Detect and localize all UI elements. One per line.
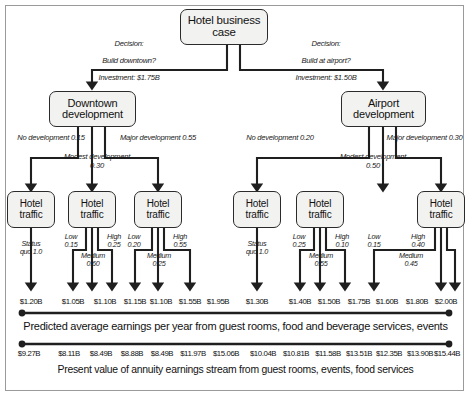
branch-label-downtown-no-development: No development 0.15 bbox=[6, 134, 96, 143]
node-hotel-traffic-airport-no-dev[interactable]: Hotel traffic bbox=[233, 191, 281, 228]
branch-label-airport-no-development: No development 0.20 bbox=[235, 134, 325, 143]
traffic-label-airport-major-high: High 0.40 bbox=[404, 233, 432, 249]
traffic-label-airport-modest-low: Low 0.25 bbox=[285, 233, 313, 249]
downtown-line-2: development bbox=[62, 109, 123, 120]
earnings-value: $1.20B bbox=[9, 297, 53, 306]
node-hotel-traffic-downtown-major[interactable]: Hotel traffic bbox=[134, 191, 182, 228]
traffic-line-2: traffic bbox=[430, 210, 453, 220]
node-hotel-traffic-airport-major[interactable]: Hotel traffic bbox=[417, 191, 465, 228]
node-hotel-traffic-downtown-no-dev[interactable]: Hotel traffic bbox=[7, 191, 55, 228]
annuity-value: $9.27B bbox=[7, 349, 51, 358]
decision-downtown-line-2: Build downtown? bbox=[76, 57, 182, 66]
root-line-2: case bbox=[188, 27, 261, 39]
airport-line-2: development bbox=[353, 109, 414, 120]
traffic-label-airport-major-medium: Medium 0.45 bbox=[389, 252, 433, 268]
earnings-value: $2.00B bbox=[424, 297, 468, 306]
branch-label-airport-modest-development: Modest development 0.50 bbox=[325, 153, 421, 170]
traffic-line-2: traffic bbox=[309, 210, 332, 220]
traffic-line-1: Hotel bbox=[246, 199, 269, 209]
traffic-line-2: traffic bbox=[81, 210, 104, 220]
decision-downtown-line-1: Decision: bbox=[76, 40, 182, 49]
node-airport-development[interactable]: Airport development bbox=[341, 91, 426, 127]
traffic-label-airport-modest-high: High 0.10 bbox=[328, 233, 356, 249]
traffic-label-downtown-no-dev-status: Status quo 1.0 bbox=[2, 240, 60, 256]
traffic-line-2: traffic bbox=[147, 210, 170, 220]
traffic-line-1: Hotel bbox=[147, 199, 170, 209]
traffic-line-1: Hotel bbox=[430, 199, 453, 209]
branch-label-downtown-major-development: Major development 0.55 bbox=[110, 134, 206, 143]
decision-downtown-line-3: Investment: $1.75B bbox=[76, 74, 182, 83]
traffic-line-2: traffic bbox=[246, 210, 269, 220]
decision-airport-line-3: Investment: $1.50B bbox=[271, 74, 381, 83]
annuity-caption: Present value of annuity earnings stream… bbox=[0, 364, 471, 375]
node-downtown-development[interactable]: Downtown development bbox=[49, 91, 136, 127]
traffic-line-1: Hotel bbox=[309, 199, 332, 209]
decision-label-airport: Decision: Build at airport? Investment: … bbox=[271, 31, 381, 91]
branch-label-airport-major-development: Major development 0.30 bbox=[378, 134, 471, 143]
node-hotel-traffic-airport-modest[interactable]: Hotel traffic bbox=[296, 191, 344, 228]
decision-label-downtown: Decision: Build downtown? Investment: $1… bbox=[76, 31, 182, 91]
traffic-label-downtown-major-medium: Medium 0.25 bbox=[137, 252, 181, 268]
traffic-label-airport-no-dev-status: Status quo 1.0 bbox=[228, 240, 286, 256]
traffic-line-1: Hotel bbox=[20, 199, 43, 209]
node-hotel-traffic-downtown-modest[interactable]: Hotel traffic bbox=[68, 191, 116, 228]
annuity-value: $15.44B bbox=[425, 349, 469, 358]
decision-tree-diagram: Hotel business case Downtown development… bbox=[0, 0, 471, 404]
branch-label-downtown-modest-development: Modest development 0.30 bbox=[49, 153, 145, 170]
decision-airport-line-2: Build at airport? bbox=[271, 57, 381, 66]
traffic-label-airport-modest-medium: Medium 0.55 bbox=[299, 252, 343, 268]
traffic-line-2: traffic bbox=[20, 210, 43, 220]
traffic-label-downtown-major-low: Low 0.20 bbox=[120, 233, 148, 249]
node-hotel-business-case[interactable]: Hotel business case bbox=[180, 9, 268, 45]
traffic-label-downtown-modest-medium: Medium 0.60 bbox=[71, 252, 115, 268]
earnings-value: $1.30B bbox=[235, 297, 279, 306]
decision-airport-line-1: Decision: bbox=[271, 40, 381, 49]
traffic-label-downtown-major-high: High 0.55 bbox=[166, 233, 194, 249]
traffic-line-1: Hotel bbox=[81, 199, 104, 209]
traffic-label-airport-major-low: Low 0.15 bbox=[360, 233, 388, 249]
earnings-caption: Predicted average earnings per year from… bbox=[0, 320, 471, 332]
earnings-value: $1.95B bbox=[196, 297, 240, 306]
traffic-label-downtown-modest-low: Low 0.15 bbox=[57, 233, 85, 249]
